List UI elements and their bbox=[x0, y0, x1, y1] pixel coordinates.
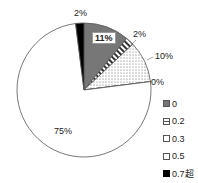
label-0-4: 0% bbox=[151, 77, 164, 87]
label-0-3: 10% bbox=[155, 51, 173, 61]
legend-label: 0.7超 bbox=[172, 167, 194, 180]
legend-label: 0 bbox=[172, 99, 177, 109]
legend-item-0-5: 0.5 bbox=[163, 148, 194, 166]
label-0-2: 2% bbox=[133, 29, 146, 39]
swatch-black-icon bbox=[163, 170, 170, 177]
legend-item-0: 0 bbox=[163, 95, 194, 113]
swatch-dark-gray-icon bbox=[163, 100, 170, 107]
swatch-white-icon bbox=[163, 153, 170, 160]
legend-item-0-2: 0.2 bbox=[163, 113, 194, 131]
swatch-dotted-icon bbox=[163, 135, 170, 142]
legend-label: 0.2 bbox=[172, 116, 185, 126]
label-0-7: 2% bbox=[74, 8, 87, 18]
swatch-striped-icon bbox=[163, 118, 170, 125]
label-0-5: 75% bbox=[54, 126, 72, 136]
pie-slices bbox=[17, 23, 153, 157]
label-0: 11% bbox=[92, 32, 116, 44]
legend-item-0-3: 0.3 bbox=[163, 130, 194, 148]
legend-label: 0.5 bbox=[172, 151, 185, 161]
legend: 0 0.2 0.3 0.5 0.7超 bbox=[163, 95, 194, 183]
leader-line bbox=[147, 57, 153, 60]
legend-item-0-7: 0.7超 bbox=[163, 165, 194, 183]
legend-label: 0.3 bbox=[172, 134, 185, 144]
